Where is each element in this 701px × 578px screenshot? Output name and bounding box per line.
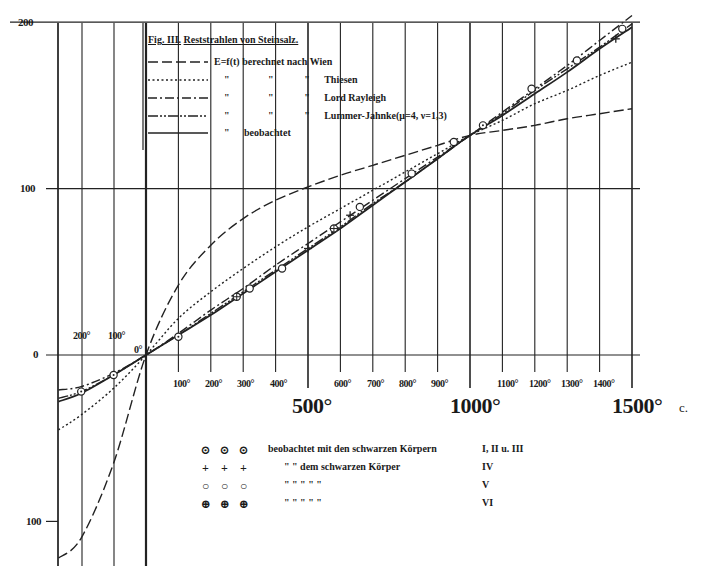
x-tick-1100: 1100°: [497, 378, 518, 389]
marker-legend-row-4: ⊕⊕⊕ " " " " " VI: [196, 497, 253, 512]
circle-dot-marker-icon: ⊙: [234, 443, 253, 458]
circle-marker-icon: [278, 265, 285, 272]
x-tick-700: 700°: [367, 378, 384, 389]
circle-marker-icon: [450, 138, 457, 145]
x-tick-800: 800°: [399, 378, 416, 389]
marker-legend-row-2: +++ " " dem schwarzen Körper IV: [196, 461, 253, 476]
figure-title: Fig. III. Reststrahlen von Steinsalz.: [148, 34, 298, 45]
circle-marker-icon: [573, 57, 580, 64]
circle-dot-marker-icon: [482, 124, 484, 126]
circle-marker-icon: [619, 25, 626, 32]
circle-marker-icon: ○: [196, 479, 215, 494]
cross-marker-icon: +: [215, 461, 234, 476]
x-tick-1000-big: 1000°: [450, 393, 500, 419]
circle-dot-marker-icon: ⊙: [215, 443, 234, 458]
circle-marker-icon: ○: [234, 479, 253, 494]
marker-legend-row-1: ⊙⊙⊙ beobachtet mit den schwarzen Körpern…: [196, 443, 253, 458]
circle-marker-icon: [408, 170, 415, 177]
crossed-circle-marker-icon: ⊕: [215, 497, 234, 512]
legend-row-observed: " beobachtet: [224, 127, 291, 138]
x-tick-900: 900°: [431, 378, 448, 389]
chart-canvas: [0, 0, 701, 578]
circle-marker-icon: [246, 285, 253, 292]
x-tick-minus-200: 200°: [73, 330, 90, 341]
legend-row-thiesen: " " " Thiesen: [224, 74, 358, 85]
x-tick-200: 200°: [205, 378, 222, 389]
legend-row-lummer-jahnke: " " " Lummer-Jahnke(μ=4, ν=1,3): [224, 110, 447, 121]
figure-title-text: Reststrahlen von Steinsalz.: [184, 34, 299, 45]
cross-marker-icon: +: [234, 461, 253, 476]
x-tick-minus-100: 100°: [108, 330, 125, 341]
figure-number: Fig. III.: [148, 34, 181, 45]
circle-dot-marker-icon: [113, 374, 115, 376]
rayleigh-curve: [59, 16, 632, 390]
legend-row-wien: E=f(t) berechnet nach Wien: [214, 56, 332, 67]
x-tick-100: 100°: [173, 378, 190, 389]
y-tick-0: 0: [33, 348, 38, 360]
x-tick-1500-big: 1500°: [612, 393, 662, 419]
y-tick-100: 100: [20, 182, 35, 194]
x-tick-500-big: 500°: [292, 393, 332, 419]
circle-marker-icon: ○: [215, 479, 234, 494]
circle-marker-icon: [528, 85, 535, 92]
circle-dot-marker-icon: ⊙: [196, 443, 215, 458]
wien-curve: [59, 109, 632, 558]
y-tick-minus-100: 100: [26, 515, 41, 527]
x-tick-600: 600°: [334, 378, 351, 389]
crossed-circle-marker-icon: ⊕: [234, 497, 253, 512]
crossed-circle-marker-icon: ⊕: [196, 497, 215, 512]
x-tick-1400: 1400°: [593, 378, 615, 389]
y-tick-200: 200: [18, 16, 33, 28]
cross-marker-icon: +: [196, 461, 215, 476]
x-tick-300: 300°: [237, 378, 254, 389]
x-tick-1300: 1300°: [561, 378, 583, 389]
x-unit-label: c.: [679, 400, 688, 416]
marker-legend-row-3: ○○○ " " " " " V: [196, 479, 253, 494]
circle-dot-marker-icon: [177, 336, 179, 338]
legend-row-rayleigh: " " " Lord Rayleigh: [224, 92, 386, 103]
x-tick-400: 400°: [270, 378, 287, 389]
x-tick-0: 0°: [134, 344, 142, 355]
x-tick-1200: 1200°: [529, 378, 551, 389]
circle-dot-marker-icon: [80, 391, 82, 393]
circle-marker-icon: [356, 203, 363, 210]
